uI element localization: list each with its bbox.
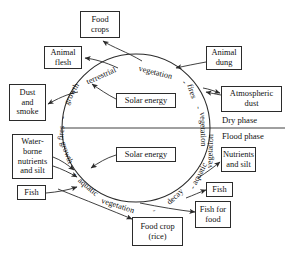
node-animal-flesh[interactable]: Animal flesh [44, 46, 82, 69]
node-waterborne-nutrients-and-silt[interactable]: Water- borne nutrients and silt [12, 134, 53, 179]
arrow-to-fish-for-food [140, 203, 195, 212]
arc-label-vegetation-lower-right: vegetation [205, 134, 215, 168]
node-atmospheric-dust[interactable]: Atmospheric dust [221, 86, 282, 112]
arrow-from-animal-dung [176, 62, 206, 68]
node-solar-energy-bottom[interactable]: Solar energy [116, 147, 176, 162]
node-fish-left[interactable]: Fish [17, 185, 46, 200]
arc-label-fires-upper-left: fires [56, 125, 66, 140]
arrow-solar-energy-bottom-to-circle [91, 155, 116, 168]
node-nutrients-and-silt[interactable]: Nutrients and silt [221, 147, 256, 172]
label-dry-phase: Dry phase [222, 115, 257, 125]
arc-label-dash-4: - [194, 106, 203, 109]
arrow-to-fish-right [186, 190, 206, 198]
node-fish-right[interactable]: Fish [206, 182, 233, 197]
node-food-crops[interactable]: Food crops [80, 11, 120, 38]
arrow-to-atmospheric-dust [203, 88, 220, 93]
arrow-to-food-crops [103, 41, 142, 61]
node-food-crop-rice[interactable]: Food crop (rice) [132, 217, 183, 246]
node-solar-energy-top[interactable]: Solar energy [116, 93, 176, 108]
label-flood-phase: Flood phase [222, 131, 264, 141]
node-fish-for-food[interactable]: Fish for food [195, 201, 231, 228]
node-dust-and-smoke[interactable]: Dust and smoke [9, 84, 46, 121]
arrow-solar-energy-top-to-circle [92, 84, 116, 99]
cycle-diagram-canvas: growth - fires - terrestrial vegetation … [0, 0, 285, 255]
node-animal-dung[interactable]: Animal dung [206, 46, 242, 70]
